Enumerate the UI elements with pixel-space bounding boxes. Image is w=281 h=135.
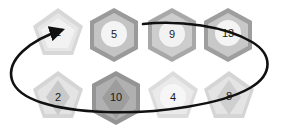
node-8[interactable]: 8 <box>204 71 254 118</box>
shape-loop-diagram: 2 10 4 8 <box>0 0 281 135</box>
figure-canvas: 2 10 4 8 <box>0 0 281 135</box>
node-5[interactable]: 5 <box>90 8 138 62</box>
node-4-label: 4 <box>170 91 176 103</box>
node-13[interactable]: 13 <box>204 8 252 62</box>
node-10[interactable]: 10 <box>92 71 140 125</box>
node-9-label: 9 <box>169 28 175 40</box>
node-10-label: 10 <box>110 91 122 103</box>
node-5-label: 5 <box>111 28 117 40</box>
node-2-label: 2 <box>55 91 61 103</box>
bottom-row: 2 10 4 8 <box>33 71 254 125</box>
node-9[interactable]: 9 <box>148 8 196 62</box>
top-row: 1 5 9 13 <box>33 8 252 62</box>
